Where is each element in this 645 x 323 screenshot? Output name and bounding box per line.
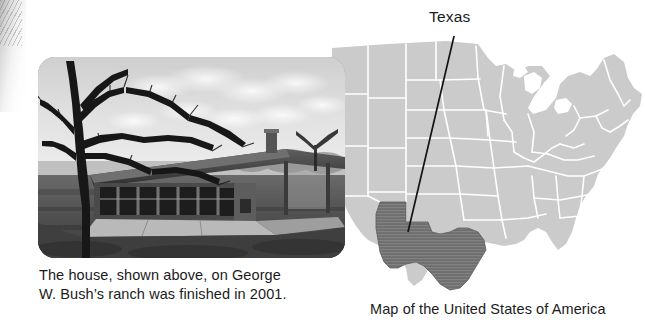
texas-callout-label: Texas <box>429 8 471 26</box>
page-root: Texas Map of the United States of Americ… <box>0 0 645 323</box>
usa-map <box>328 36 645 292</box>
scan-edge-artifact <box>0 0 26 112</box>
photo-caption-line-2: W. Bush’s ranch was finished in 2001. <box>39 285 339 304</box>
photo-caption-line-1: The house, shown above, on George <box>39 266 339 285</box>
photo-caption: The house, shown above, on George W. Bus… <box>39 266 339 304</box>
map-landmass <box>331 41 642 286</box>
map-caption: Map of the United States of America <box>370 301 606 317</box>
ranch-house-photo <box>38 57 345 258</box>
